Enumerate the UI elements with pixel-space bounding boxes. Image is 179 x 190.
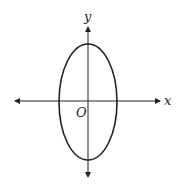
- y-axis-label: y: [83, 9, 92, 24]
- origin-label: O: [76, 105, 87, 120]
- x-axis-label: x: [164, 93, 172, 108]
- ellipse-diagram: y x O: [0, 0, 179, 190]
